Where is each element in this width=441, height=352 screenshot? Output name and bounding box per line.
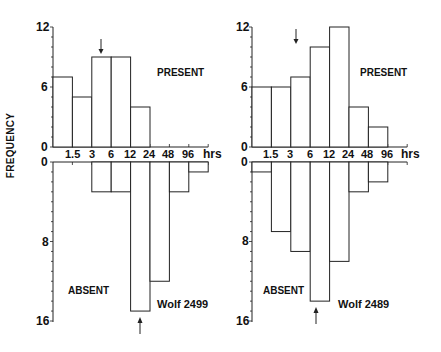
absent-bar — [291, 162, 310, 251]
x-tick-96: 96 — [182, 149, 194, 160]
x-tick-6: 6 — [108, 149, 114, 160]
y-tick-bottom-0: 0 — [241, 156, 248, 168]
absent-bar — [310, 162, 329, 301]
y-tick-top-12: 12 — [236, 21, 249, 33]
y-tick-top-6: 6 — [241, 81, 248, 93]
absent-bar — [330, 162, 349, 261]
absent-bar — [368, 162, 387, 182]
present-bar — [368, 127, 387, 147]
absent-label: ABSENT — [263, 286, 304, 296]
absent-bar — [150, 162, 169, 281]
present-bar — [349, 107, 368, 147]
chart-title-wolf-2499: Wolf 2499 — [157, 299, 208, 310]
y-tick-bottom-16: 16 — [36, 315, 49, 327]
y-tick-top-0: 0 — [41, 141, 48, 153]
present-bar — [310, 47, 329, 147]
present-label: PRESENT — [157, 68, 204, 78]
x-unit-hrs: hrs — [203, 148, 222, 160]
present-bar — [92, 57, 111, 147]
x-tick-24: 24 — [143, 149, 155, 160]
x-tick-1-5: 1.5 — [65, 149, 80, 160]
absent-bar — [169, 162, 188, 192]
absent-bar — [131, 162, 150, 311]
x-tick-48: 48 — [162, 149, 174, 160]
present-bar — [72, 97, 91, 147]
y-tick-bottom-0: 0 — [41, 156, 48, 168]
x-tick-96: 96 — [381, 149, 393, 160]
absent-bar — [252, 162, 271, 172]
present-bar — [271, 87, 290, 147]
absent-bar — [92, 162, 111, 192]
y-tick-bottom-16: 16 — [236, 315, 249, 327]
y-tick-top-12: 12 — [36, 21, 49, 33]
y-tick-top-6: 6 — [41, 81, 48, 93]
present-bar — [111, 57, 130, 147]
present-bar — [330, 27, 349, 147]
x-tick-6: 6 — [307, 149, 313, 160]
y-tick-bottom-8: 8 — [242, 235, 249, 247]
x-tick-1-5: 1.5 — [263, 149, 278, 160]
absent-bar — [111, 162, 130, 192]
chart-title-wolf-2489: Wolf 2489 — [338, 299, 389, 310]
y-tick-top-0: 0 — [241, 141, 248, 153]
present-bar — [291, 77, 310, 147]
x-tick-12: 12 — [323, 149, 335, 160]
absent-label: ABSENT — [68, 286, 109, 296]
x-tick-3: 3 — [89, 149, 95, 160]
present-bar — [252, 87, 271, 147]
histogram-figure: FREQUENCY 12 6 0 0 8 16 1.5 3 6 12 24 48… — [0, 0, 441, 352]
x-tick-12: 12 — [124, 149, 136, 160]
x-tick-48: 48 — [361, 149, 373, 160]
present-bar — [131, 107, 150, 147]
absent-bar — [189, 162, 208, 172]
x-tick-24: 24 — [342, 149, 354, 160]
present-label: PRESENT — [360, 68, 407, 78]
absent-bar — [349, 162, 368, 192]
y-tick-bottom-8: 8 — [42, 236, 49, 248]
present-bar — [53, 77, 72, 147]
x-tick-3: 3 — [287, 149, 293, 160]
x-unit-hrs: hrs — [401, 148, 420, 160]
absent-bar — [271, 162, 290, 232]
